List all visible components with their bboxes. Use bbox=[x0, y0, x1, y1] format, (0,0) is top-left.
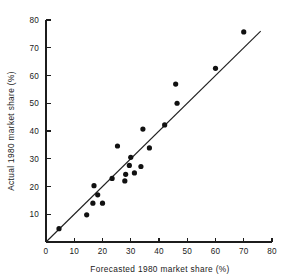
data-point bbox=[84, 212, 89, 217]
x-tick-label: 0 bbox=[44, 247, 49, 256]
x-tick-label: 60 bbox=[211, 247, 221, 256]
scatter-chart-figure: 010203040506070801020304050607080 Foreca… bbox=[0, 0, 291, 279]
data-point bbox=[95, 192, 100, 197]
plot-canvas: 010203040506070801020304050607080 Foreca… bbox=[0, 0, 291, 279]
x-tick-label: 30 bbox=[126, 247, 136, 256]
data-points-layer bbox=[56, 29, 246, 231]
data-point bbox=[147, 145, 152, 150]
data-point bbox=[174, 101, 179, 106]
data-point bbox=[241, 29, 246, 34]
data-point bbox=[90, 201, 95, 206]
data-point bbox=[56, 226, 61, 231]
identity-reference-line bbox=[46, 31, 261, 242]
data-point bbox=[128, 155, 133, 160]
data-point bbox=[213, 66, 218, 71]
x-tick-label: 80 bbox=[267, 247, 277, 256]
data-point bbox=[173, 82, 178, 87]
y-tick-label: 40 bbox=[29, 127, 39, 136]
data-point bbox=[140, 126, 145, 131]
data-point bbox=[91, 183, 96, 188]
x-tick-label: 70 bbox=[239, 247, 249, 256]
y-tick-label: 20 bbox=[29, 183, 39, 192]
data-point bbox=[122, 178, 127, 183]
y-tick-label: 70 bbox=[29, 44, 39, 53]
data-point bbox=[115, 143, 120, 148]
y-tick-label: 30 bbox=[29, 155, 39, 164]
y-tick-label: 10 bbox=[29, 210, 39, 219]
y-tick-label: 80 bbox=[29, 16, 39, 25]
x-tick-label: 20 bbox=[98, 247, 108, 256]
data-point bbox=[110, 176, 115, 181]
y-tick-label: 60 bbox=[29, 72, 39, 81]
y-axis-title: Actual 1980 market share (%) bbox=[6, 71, 16, 191]
y-tick-label: 50 bbox=[29, 99, 39, 108]
x-axis-title: Forecasted 1980 market share (%) bbox=[90, 264, 229, 274]
x-tick-label: 10 bbox=[69, 247, 79, 256]
data-point bbox=[100, 201, 105, 206]
x-tick-label: 40 bbox=[154, 247, 164, 256]
data-point bbox=[162, 122, 167, 127]
x-tick-label: 50 bbox=[182, 247, 192, 256]
data-point bbox=[123, 172, 128, 177]
data-point bbox=[127, 163, 132, 168]
data-point bbox=[138, 164, 143, 169]
data-point bbox=[132, 170, 137, 175]
identity-line bbox=[46, 31, 261, 242]
